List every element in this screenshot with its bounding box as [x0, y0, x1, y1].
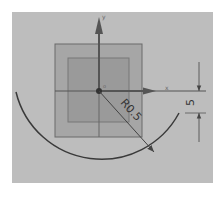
x-axis-label: x	[165, 84, 169, 91]
y-axis-label: y	[102, 13, 106, 21]
linear-dimension-label[interactable]: 5	[184, 99, 197, 106]
sketch-drawing: y x o R0.5 5	[0, 0, 215, 197]
origin-label: o	[103, 83, 106, 89]
